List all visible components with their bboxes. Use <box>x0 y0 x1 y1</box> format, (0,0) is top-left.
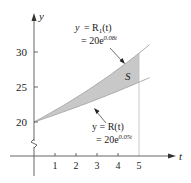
y-axis-label: y <box>38 10 44 22</box>
y-axis-arrow-icon <box>32 13 37 21</box>
x-tick-label-2: 2 <box>74 160 79 171</box>
y-tick-label-25: 25 <box>16 81 28 93</box>
x-tick-label-5: 5 <box>137 160 142 171</box>
y-tick-label-20: 20 <box>16 116 28 128</box>
x-axis-label: t <box>179 150 183 162</box>
region-label-s: S <box>125 70 131 82</box>
lower-arrowhead-icon <box>94 108 100 114</box>
lower-curve-label-line1: y = R(t) <box>92 121 124 133</box>
chart: 30 25 20 1 2 3 4 5 y t S y = R1(t) = 20e… <box>0 0 191 183</box>
lower-curve-label-line2: = 20e0.05t <box>96 133 132 145</box>
upper-annotation-arrow <box>110 48 122 61</box>
upper-curve-label-line2: = 20e0.08t <box>81 34 117 46</box>
shaded-region-s <box>34 53 139 122</box>
x-axis-arrow-icon <box>168 154 176 159</box>
y-tick-label-30: 30 <box>16 46 28 58</box>
x-tick-label-1: 1 <box>53 160 58 171</box>
x-tick-label-3: 3 <box>95 160 100 171</box>
x-tick-label-4: 4 <box>116 160 121 171</box>
